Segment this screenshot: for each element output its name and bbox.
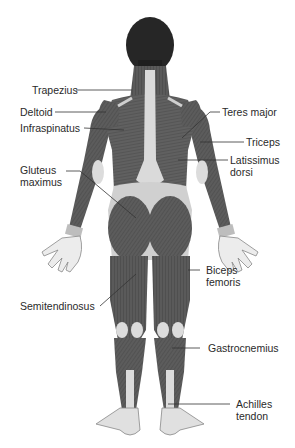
torso — [99, 70, 202, 190]
label-gluteus-maximus: Gluteus maximus — [20, 164, 62, 188]
hips-legs — [96, 182, 204, 435]
label-line1: Biceps — [206, 264, 240, 276]
label-infraspinatus: Infraspinatus — [20, 122, 80, 134]
label-line2: tendon — [236, 410, 272, 422]
label-trapezius: Trapezius — [32, 84, 78, 96]
label-triceps: Triceps — [246, 136, 280, 148]
head — [126, 17, 174, 74]
label-line1: Gluteus — [20, 164, 62, 176]
label-latissimus-dorsi: Latissimus dorsi — [230, 154, 280, 178]
right-gluteus — [148, 196, 192, 260]
label-semitendinosus: Semitendinosus — [20, 300, 95, 312]
right-foot — [160, 408, 204, 435]
label-deltoid: Deltoid — [20, 106, 53, 118]
label-teres-major: Teres major — [222, 106, 277, 118]
label-line2: femoris — [206, 276, 240, 288]
label-line1: Latissimus — [230, 154, 280, 166]
right-arm — [190, 104, 258, 272]
left-hand — [42, 236, 82, 272]
label-line2: maximus — [20, 176, 62, 188]
label-line1: Achilles — [236, 398, 272, 410]
muscle-diagram — [0, 0, 295, 448]
label-achilles-tendon: Achilles tendon — [236, 398, 272, 422]
label-line2: dorsi — [230, 166, 280, 178]
label-gastrocnemius: Gastrocnemius — [208, 342, 279, 354]
left-gluteus — [108, 196, 152, 260]
left-foot — [96, 408, 140, 435]
label-biceps-femoris: Biceps femoris — [206, 264, 240, 288]
